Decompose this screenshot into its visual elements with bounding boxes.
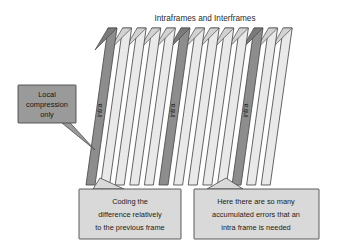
- callout-local-line-2: compression: [26, 100, 68, 109]
- frame-intra-label: intra: [95, 104, 104, 118]
- callout-local-compression[interactable]: Local compression only: [18, 85, 95, 150]
- callout-local-line-1: Local: [38, 90, 56, 99]
- callout-coding-line-2: difference relatively: [98, 210, 162, 219]
- intraframes-interframes-diagram: Intraframes and Interframes intraintrain…: [0, 0, 344, 247]
- frame-stack: intraintraintra: [86, 28, 292, 185]
- callout-errors-line-3: intra frame is needed: [221, 223, 290, 232]
- callout-coding-difference[interactable]: Coding the difference relatively to the …: [79, 178, 181, 239]
- callout-coding-line-1: Coding the: [112, 197, 148, 206]
- diagram-title: Intraframes and Interframes: [154, 14, 255, 23]
- callout-errors-line-1: Here there are so many: [217, 197, 295, 206]
- callout-coding-line-3: to the previous frame: [95, 223, 164, 232]
- callout-errors-line-2: accumulated errors that an: [212, 210, 300, 219]
- diagram-canvas: Intraframes and Interframes intraintrain…: [0, 0, 344, 247]
- callout-accumulated-errors[interactable]: Here there are so many accumulated error…: [194, 178, 319, 239]
- callout-local-line-3: only: [40, 110, 54, 119]
- frame-intra-label: intra: [168, 104, 177, 118]
- frame-intra-label: intra: [241, 104, 250, 118]
